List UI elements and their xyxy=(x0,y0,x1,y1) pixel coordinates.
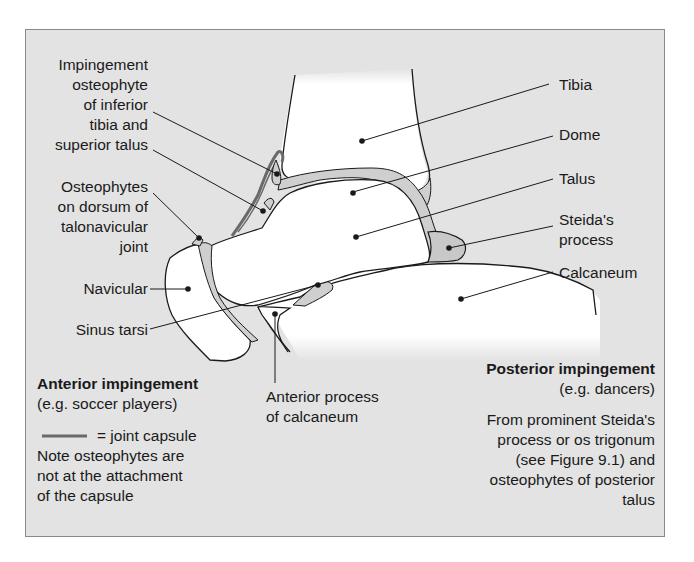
anterior-impingement-block: Anterior impingement (e.g. soccer player… xyxy=(37,374,198,414)
note-line: (see Figure 9.1) and xyxy=(440,450,655,470)
legend-joint-capsule-text: = joint capsule xyxy=(97,426,197,446)
anterior-note: Note osteophytes are not at the attachme… xyxy=(37,446,184,506)
label-tibia: Tibia xyxy=(559,75,592,95)
talus-osteophyte xyxy=(264,198,274,210)
label-line: tibia and xyxy=(30,115,148,135)
label-impingement-osteophyte: Impingement osteophyte of inferior tibia… xyxy=(30,55,148,155)
posterior-subtitle: (e.g. dancers) xyxy=(440,379,655,399)
note-line: not at the attachment xyxy=(37,466,184,486)
label-line: joint xyxy=(30,237,148,257)
label-steida-process: Steida's process xyxy=(559,210,614,250)
posterior-title: Posterior impingement xyxy=(440,359,655,379)
label-anterior-process-calcaneum: Anterior process of calcaneum xyxy=(266,387,379,427)
anterior-subtitle: (e.g. soccer players) xyxy=(37,394,198,414)
label-line: process xyxy=(559,230,614,250)
note-line: Note osteophytes are xyxy=(37,446,184,466)
label-dome: Dome xyxy=(559,125,600,145)
label-line: of inferior xyxy=(30,95,148,115)
note-line: of the capsule xyxy=(37,486,184,506)
note-line: process or os trigonum xyxy=(440,430,655,450)
label-line: Osteophytes xyxy=(30,177,148,197)
label-line: of calcaneum xyxy=(266,407,379,427)
anterior-title: Anterior impingement xyxy=(37,374,198,394)
label-line: Impingement xyxy=(30,55,148,75)
label-navicular: Navicular xyxy=(30,279,148,299)
label-line: Steida's xyxy=(559,210,614,230)
label-line: Anterior process xyxy=(266,387,379,407)
label-talus: Talus xyxy=(559,169,595,189)
label-line: superior talus xyxy=(30,135,148,155)
posterior-impingement-block: Posterior impingement (e.g. dancers) xyxy=(440,359,655,399)
label-sinus-tarsi: Sinus tarsi xyxy=(30,320,148,340)
label-calcaneum: Calcaneum xyxy=(559,263,637,283)
label-line: on dorsum of xyxy=(30,197,148,217)
note-line: osteophytes of posterior xyxy=(440,470,655,490)
posterior-note: From prominent Steida's process or os tr… xyxy=(440,410,655,510)
note-line: talus xyxy=(440,490,655,510)
note-line: From prominent Steida's xyxy=(440,410,655,430)
label-line: osteophyte xyxy=(30,75,148,95)
label-talonavicular-osteophytes: Osteophytes on dorsum of talonavicular j… xyxy=(30,177,148,257)
label-line: talonavicular xyxy=(30,217,148,237)
